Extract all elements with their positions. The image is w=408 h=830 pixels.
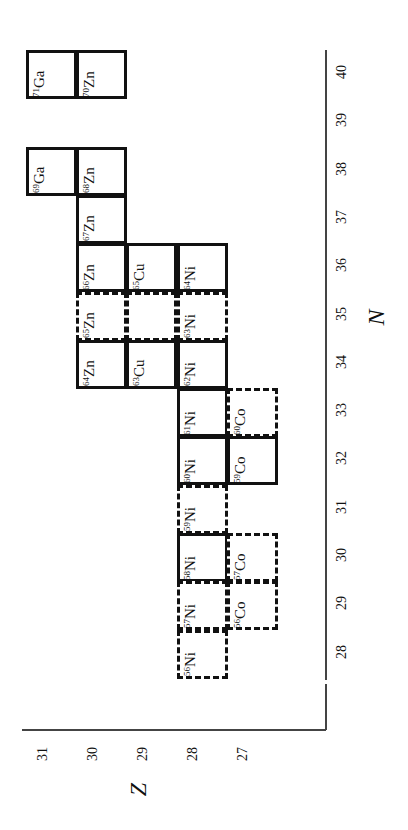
nuclide-cell: 58Ni <box>177 533 228 582</box>
nuclide-cell: 67Zn <box>76 195 127 244</box>
nuclide-label: 62Ni <box>183 362 198 386</box>
nuclide-label: 59Co <box>233 456 248 483</box>
n-tick-label: 32 <box>334 446 350 470</box>
n-axis-line <box>325 50 327 680</box>
nuclide-cell: 71Ga <box>26 50 77 99</box>
nuclide-label: 68Zn <box>82 167 97 193</box>
nuclide-label: 56Ni <box>183 652 198 676</box>
nuclide-cell: 65Cu <box>126 243 177 292</box>
n-axis-line-lower <box>325 684 327 730</box>
n-tick-label: 30 <box>334 543 350 567</box>
nuclide-cell <box>126 292 177 341</box>
nuclide-label: 69Ga <box>32 167 47 194</box>
n-tick-label: 28 <box>334 640 350 664</box>
n-axis-title: N <box>363 309 390 325</box>
nuclide-label: 63Cu <box>132 360 147 387</box>
nuclide-label: 71Ga <box>32 70 47 97</box>
nuclide-cell: 66Zn <box>76 243 127 292</box>
nuclide-cell: 70Zn <box>76 50 127 99</box>
z-tick-label: 28 <box>185 742 201 766</box>
z-tick-label: 27 <box>235 742 251 766</box>
z-tick-label: 29 <box>135 742 151 766</box>
nuclide-label: 57Co <box>233 553 248 580</box>
nuclide-cell: 59Co <box>227 436 278 485</box>
nuclide-cell: 68Zn <box>76 147 127 196</box>
n-tick-label: 35 <box>334 302 350 326</box>
nuclide-label: 61Ni <box>183 411 198 435</box>
nuclide-label: 70Zn <box>82 71 97 97</box>
nuclide-cell: 59Ni <box>177 485 228 534</box>
n-tick-label: 31 <box>334 495 350 519</box>
z-tick-label: 30 <box>85 742 101 766</box>
nuclide-label: 63Ni <box>183 314 198 338</box>
nuclide-cell: 64Zn <box>76 340 127 389</box>
nuclide-cell: 62Ni <box>177 340 228 389</box>
nuclide-label: 56Co <box>233 601 248 628</box>
nuclide-cell: 63Ni <box>177 292 228 341</box>
nuclide-chart: 71Ga70Zn69Ga68Zn67Zn66Zn65Cu64Ni65Zn63Ni… <box>0 0 408 830</box>
n-tick-label: 38 <box>334 157 350 181</box>
nuclide-label: 57Ni <box>183 604 198 628</box>
n-tick-label: 34 <box>334 350 350 374</box>
nuclide-label: 66Zn <box>82 264 97 290</box>
n-tick-label: 36 <box>334 253 350 277</box>
n-tick-label: 33 <box>334 398 350 422</box>
z-axis-line <box>22 729 326 731</box>
nuclide-cell: 57Co <box>227 533 278 582</box>
n-tick-label: 29 <box>334 591 350 615</box>
nuclide-label: 58Ni <box>183 556 198 580</box>
nuclide-label: 67Zn <box>82 216 97 242</box>
z-axis-title: Z <box>125 783 152 796</box>
nuclide-cell: 69Ga <box>26 147 77 196</box>
nuclide-cell: 57Ni <box>177 581 228 630</box>
n-tick-label: 39 <box>334 108 350 132</box>
nuclide-label: 65Zn <box>82 312 97 338</box>
nuclide-label: 59Ni <box>183 507 198 531</box>
nuclide-label: 64Zn <box>82 361 97 387</box>
n-tick-label: 37 <box>334 205 350 229</box>
z-tick-label: 31 <box>35 742 51 766</box>
nuclide-cell: 60Ni <box>177 436 228 485</box>
nuclide-cell: 64Ni <box>177 243 228 292</box>
nuclide-cell: 60Co <box>227 388 278 437</box>
n-tick-label: 40 <box>334 60 350 84</box>
nuclide-cell: 61Ni <box>177 388 228 437</box>
nuclide-cell: 56Ni <box>177 630 228 679</box>
nuclide-cell: 63Cu <box>126 340 177 389</box>
nuclide-cell: 56Co <box>227 581 278 630</box>
nuclide-cell: 65Zn <box>76 292 127 341</box>
nuclide-label: 60Co <box>233 408 248 435</box>
nuclide-label: 65Cu <box>132 263 147 290</box>
nuclide-label: 60Ni <box>183 459 198 483</box>
nuclide-label: 64Ni <box>183 266 198 290</box>
